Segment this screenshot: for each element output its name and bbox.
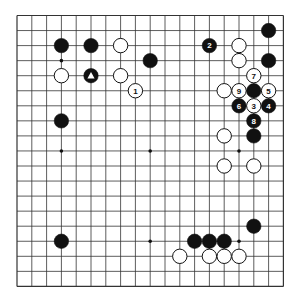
white-stone[interactable] — [217, 159, 231, 173]
stone-disc — [143, 53, 157, 67]
black-stone[interactable]: 2 — [202, 38, 216, 52]
stone-disc — [247, 84, 261, 98]
black-stone[interactable] — [261, 23, 275, 37]
move-number: 8 — [252, 117, 257, 126]
black-stone[interactable] — [84, 38, 98, 52]
white-stone[interactable]: 9 — [232, 84, 246, 98]
stone-disc — [202, 249, 216, 263]
white-stone[interactable] — [113, 69, 127, 83]
stone-disc — [84, 38, 98, 52]
stone-disc — [232, 53, 246, 67]
white-stone[interactable]: 3 — [247, 99, 261, 113]
move-number: 4 — [266, 102, 271, 111]
stone-disc — [113, 69, 127, 83]
stone-disc — [232, 249, 246, 263]
white-stone[interactable] — [217, 129, 231, 143]
white-stone[interactable] — [202, 249, 216, 263]
move-number: 6 — [237, 102, 242, 111]
stone-disc — [261, 23, 275, 37]
black-stone[interactable] — [261, 53, 275, 67]
black-stone[interactable] — [247, 84, 261, 98]
white-stone[interactable]: 1 — [128, 84, 142, 98]
white-stone[interactable]: 5 — [261, 84, 275, 98]
stone-disc — [232, 38, 246, 52]
black-stone[interactable] — [84, 69, 98, 83]
move-number: 7 — [252, 72, 257, 81]
move-number: 1 — [133, 87, 138, 96]
stone-disc — [217, 84, 231, 98]
move-number: 9 — [237, 87, 242, 96]
stone-disc — [54, 234, 68, 248]
star-point — [60, 59, 64, 63]
black-stone[interactable] — [247, 219, 261, 233]
star-point — [148, 239, 152, 243]
stone-disc — [217, 159, 231, 173]
black-stone[interactable] — [143, 53, 157, 67]
white-stone[interactable] — [232, 38, 246, 52]
white-stone[interactable] — [113, 38, 127, 52]
black-stone[interactable] — [217, 234, 231, 248]
stone-disc — [187, 234, 201, 248]
stone-disc — [54, 114, 68, 128]
black-stone[interactable] — [54, 234, 68, 248]
black-stone[interactable] — [187, 234, 201, 248]
star-point — [60, 149, 64, 153]
black-stone[interactable] — [54, 114, 68, 128]
stone-disc — [217, 234, 231, 248]
black-stone[interactable]: 6 — [232, 99, 246, 113]
move-number: 3 — [252, 102, 257, 111]
stone-disc — [202, 234, 216, 248]
black-stone[interactable] — [202, 234, 216, 248]
white-stone[interactable] — [54, 69, 68, 83]
white-stone[interactable] — [217, 84, 231, 98]
stone-disc — [217, 129, 231, 143]
move-number: 5 — [266, 87, 271, 96]
move-number: 2 — [207, 41, 212, 50]
stone-disc — [217, 249, 231, 263]
stone-disc — [113, 38, 127, 52]
white-stone[interactable] — [217, 249, 231, 263]
stone-disc — [173, 249, 187, 263]
black-stone[interactable]: 4 — [261, 99, 275, 113]
stone-disc — [247, 219, 261, 233]
white-stone[interactable] — [247, 159, 261, 173]
stone-disc — [54, 69, 68, 83]
stone-disc — [247, 159, 261, 173]
black-stone[interactable]: 8 — [247, 114, 261, 128]
stone-disc — [247, 129, 261, 143]
star-point — [237, 239, 241, 243]
go-board[interactable]: 127956348 — [0, 0, 300, 305]
white-stone[interactable]: 7 — [247, 69, 261, 83]
star-point — [148, 149, 152, 153]
black-stone[interactable] — [54, 38, 68, 52]
white-stone[interactable] — [232, 53, 246, 67]
black-stone[interactable] — [247, 129, 261, 143]
white-stone[interactable] — [173, 249, 187, 263]
star-point — [237, 149, 241, 153]
stone-disc — [261, 53, 275, 67]
stone-disc — [54, 38, 68, 52]
white-stone[interactable] — [232, 249, 246, 263]
